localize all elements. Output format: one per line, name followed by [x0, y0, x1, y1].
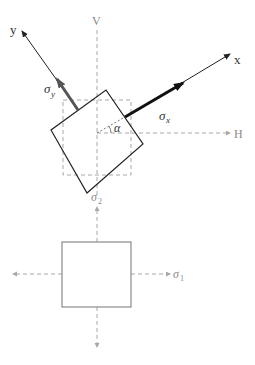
- sigma-y-label: σ y: [44, 81, 55, 99]
- principal-stress-element: [62, 242, 131, 307]
- svg-text:y: y: [50, 89, 55, 99]
- top-figure: y V x H σ y σ x α: [10, 14, 243, 195]
- sigma-1-label: σ 1: [173, 267, 184, 283]
- svg-text:2: 2: [98, 197, 102, 206]
- x-axis-label: x: [234, 52, 241, 67]
- bottom-figure: σ 2 σ 1: [13, 190, 184, 347]
- stress-transformation-diagram: y V x H σ y σ x α σ 2 σ 1: [0, 0, 255, 365]
- svg-text:σ: σ: [159, 108, 166, 123]
- vertical-axis-label: V: [92, 14, 101, 28]
- horizontal-axis-label: H: [234, 127, 243, 141]
- svg-text:σ: σ: [44, 81, 51, 96]
- svg-text:x: x: [165, 115, 170, 125]
- svg-text:1: 1: [180, 274, 184, 283]
- svg-text:σ: σ: [173, 267, 180, 281]
- sigma-y-arrow: [57, 79, 78, 110]
- y-axis-label: y: [10, 22, 17, 37]
- alpha-angle-label: α: [114, 121, 121, 135]
- sigma-x-arrow: [125, 83, 183, 117]
- sigma-x-label: σ x: [159, 108, 170, 125]
- angle-arc: [109, 126, 111, 133]
- sigma-2-label: σ 2: [91, 190, 102, 206]
